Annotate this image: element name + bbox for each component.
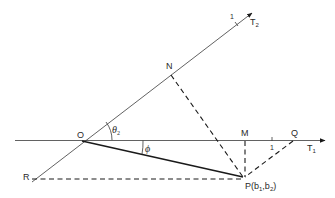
point-q-label: Q bbox=[291, 128, 298, 138]
t2-unit-label: 1 bbox=[230, 13, 234, 20]
t1-axis-label: T1 bbox=[307, 143, 317, 154]
op-segment bbox=[82, 141, 243, 177]
point-r-label: R bbox=[23, 172, 30, 182]
pn-dashed-segment bbox=[171, 75, 243, 177]
vector-diagram: O N M Q R P(b1,b2) T1 T2 1 1 θ2 ϕ bbox=[0, 0, 335, 198]
point-o-label: O bbox=[77, 130, 84, 140]
pq-dashed-segment bbox=[245, 141, 293, 177]
theta-angle-label: θ2 bbox=[112, 124, 120, 136]
t2-axis-label: T2 bbox=[250, 17, 260, 28]
t2-axis bbox=[32, 13, 252, 182]
t1-unit-label: 1 bbox=[270, 144, 274, 151]
phi-arc bbox=[142, 141, 143, 155]
point-p-label: P(b1,b2) bbox=[245, 181, 276, 192]
point-n-label: N bbox=[166, 61, 173, 71]
point-m-label: M bbox=[241, 128, 249, 138]
phi-angle-label: ϕ bbox=[145, 143, 150, 154]
